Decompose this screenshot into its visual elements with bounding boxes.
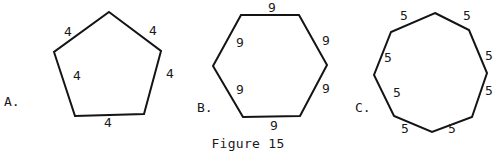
octagon-outline xyxy=(374,13,487,132)
side-length-label: 4 xyxy=(73,68,81,83)
shape-a-letter: A. xyxy=(4,94,20,109)
shape-c-letter: C. xyxy=(355,100,371,115)
shape-c-octagon: C. 55555555 xyxy=(355,8,493,136)
shape-b-hexagon: B. 999999 xyxy=(197,0,330,133)
side-length-label: 4 xyxy=(166,66,174,81)
shape-b-letter: B. xyxy=(197,100,213,115)
side-length-label: 5 xyxy=(384,50,392,65)
side-length-label: 5 xyxy=(485,48,493,63)
side-length-label: 9 xyxy=(268,0,276,15)
side-length-label: 4 xyxy=(149,23,157,38)
side-length-label: 4 xyxy=(64,24,72,39)
hexagon-outline xyxy=(213,15,327,117)
side-length-label: 9 xyxy=(322,81,330,96)
side-length-label: 5 xyxy=(448,121,456,136)
side-length-label: 5 xyxy=(400,8,408,23)
side-length-label: 5 xyxy=(485,83,493,98)
side-length-label: 9 xyxy=(236,82,244,97)
side-length-label: 4 xyxy=(104,115,112,130)
shape-a-pentagon: A. 44444 xyxy=(4,12,174,130)
side-length-label: 9 xyxy=(236,35,244,50)
side-length-label: 5 xyxy=(401,121,409,136)
side-length-label: 9 xyxy=(322,33,330,48)
side-length-label: 5 xyxy=(463,8,471,23)
side-length-label: 5 xyxy=(393,85,401,100)
figure-caption: Figure 15 xyxy=(0,136,496,151)
side-length-label: 9 xyxy=(270,118,278,133)
